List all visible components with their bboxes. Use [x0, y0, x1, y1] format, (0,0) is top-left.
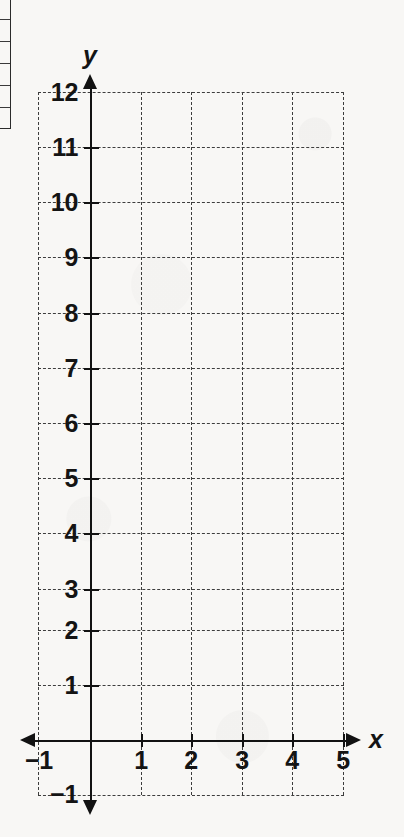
gridline-vertical-x1: [141, 92, 142, 795]
x-axis-arrow-left-icon: [20, 733, 35, 747]
coordinate-plane: 12 11 10 9 8 7 6 5 4 3 2 1 −1 −1 1 2 3 4…: [0, 0, 404, 837]
tick-y-8: [84, 313, 99, 315]
y-tick-label-4: 4: [26, 521, 78, 546]
gridline-vertical-x3: [242, 92, 243, 795]
y-tick-label-2: 2: [26, 618, 78, 643]
y-tick-label-3: 3: [26, 577, 78, 602]
tick-y-2: [84, 630, 99, 632]
x-tick-label-3: 3: [219, 748, 265, 773]
x-tick-label-neg1: −1: [16, 748, 62, 773]
y-tick-label-10: 10: [26, 190, 78, 215]
y-tick-label-7: 7: [26, 356, 78, 381]
y-axis-arrow-up-icon: [83, 74, 97, 89]
gridline-vertical-x5: [343, 92, 344, 795]
x-axis-label: x: [369, 727, 383, 752]
gridline-vertical-x4: [292, 92, 293, 795]
gridline-horizontal-yneg1: [38, 795, 344, 796]
tick-y-6: [84, 423, 99, 425]
y-tick-label-5: 5: [26, 466, 78, 491]
y-axis: [90, 86, 92, 806]
y-tick-label-1: 1: [26, 673, 78, 698]
y-tick-label-6: 6: [26, 411, 78, 436]
tick-y-4: [84, 533, 99, 535]
tick-y-5: [84, 478, 99, 480]
x-tick-label-2: 2: [168, 748, 214, 773]
x-tick-label-4: 4: [269, 748, 315, 773]
gridline-vertical-x2: [191, 92, 192, 795]
x-tick-label-5: 5: [320, 748, 366, 773]
y-tick-label-12: 12: [26, 80, 78, 105]
y-axis-label: y: [83, 43, 97, 68]
tick-y-10: [84, 202, 99, 204]
tick-y-3: [84, 589, 99, 591]
tick-y-1: [84, 685, 99, 687]
y-tick-label-8: 8: [26, 301, 78, 326]
tick-y-9: [84, 257, 99, 259]
y-tick-label-11: 11: [26, 135, 78, 160]
y-tick-label-9: 9: [26, 245, 78, 270]
x-axis-arrow-right-icon: [346, 733, 361, 747]
tick-y-7: [84, 368, 99, 370]
y-tick-label-neg1: −1: [26, 782, 78, 807]
x-tick-label-1: 1: [118, 748, 164, 773]
x-axis: [32, 740, 357, 742]
gridline-horizontal-y12: [38, 92, 344, 93]
y-axis-arrow-down-icon: [83, 800, 97, 815]
tick-y-11: [84, 147, 99, 149]
